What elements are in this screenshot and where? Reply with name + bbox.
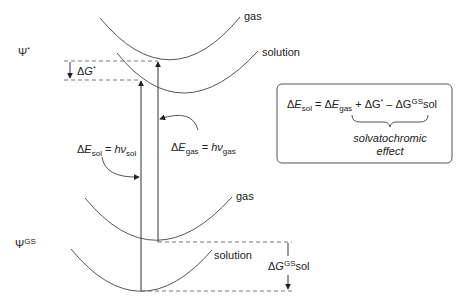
ground-solution-label: solution: [214, 249, 252, 261]
brace-caption-line2: effect: [377, 145, 405, 157]
delta-g-star-label: ΔG*: [77, 65, 96, 77]
transition-sol-label: ΔEsol = hνsol: [77, 143, 137, 158]
excited-gas-curve: [100, 17, 240, 60]
ground-state-label: ΨGS: [15, 237, 36, 250]
solvatochromic-energy-diagram: Ψ* ΨGS gas solution gas solution ΔG* ΔEs…: [0, 0, 463, 306]
sol-pointer-arrow: [102, 157, 139, 177]
brace-caption-line1: solvatochromic: [353, 132, 427, 144]
transition-gas-label: ΔEgas = hνgas: [171, 141, 236, 156]
gas-pointer-arrow: [160, 115, 198, 130]
equation-box: [277, 84, 452, 163]
excited-solution-label: solution: [262, 46, 300, 58]
delta-g-gs-sol-label: ΔGGSsol: [268, 259, 310, 272]
ground-gas-label: gas: [236, 190, 254, 202]
excited-gas-label: gas: [244, 10, 262, 22]
excited-state-label: Ψ*: [18, 46, 30, 58]
